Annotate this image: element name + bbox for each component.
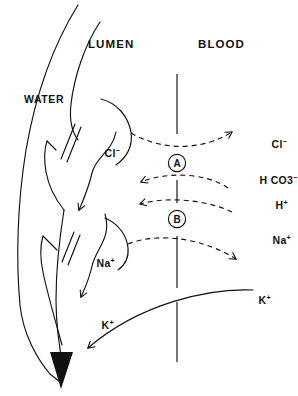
flow-chloride-to-blood	[131, 132, 232, 146]
flow-sodium-to-lumen	[81, 214, 107, 297]
flow-chloride-to-lumen	[79, 132, 116, 210]
apical-membrane-upper	[45, 141, 64, 210]
water-label: WATER	[24, 93, 64, 105]
ion-label-potassium-lumen: K+	[79, 315, 130, 331]
lateral-space-inner-wall-lower	[56, 210, 64, 372]
tight-junction-lower-mark-1	[62, 232, 74, 262]
junction-hook-lower	[43, 236, 57, 250]
ion-label-potassium-blood: K+	[236, 290, 287, 306]
exchanger-a-label: A	[173, 158, 180, 169]
ion-label-chloride-cell: Cl−	[82, 143, 136, 159]
ion-label-sodium-blood: Na+	[250, 230, 298, 246]
flow-sodium-to-blood	[128, 238, 236, 259]
transport-diagram: A B LUMEN BLOOD WATER Cl− Cl− H CO3−	[0, 0, 298, 396]
diagram-canvas: A B LUMEN BLOOD WATER Cl− Cl− H CO3−	[0, 0, 298, 396]
junction-hook-upper	[47, 141, 56, 150]
exchanger-b-label: B	[173, 214, 180, 225]
lateral-space-outer-wall	[18, 5, 78, 374]
flow-hydrogen-to-cell	[140, 200, 232, 212]
flow-bicarbonate-to-cell	[141, 175, 228, 188]
ion-label-bicarbonate-blood: H CO3−	[237, 170, 298, 186]
tight-junction-upper-mark-1	[61, 124, 75, 159]
lumen-label: LUMEN	[88, 38, 134, 50]
blood-label: BLOOD	[198, 38, 245, 50]
ion-label-hydrogen-blood: H+	[253, 195, 298, 211]
ion-label-chloride-blood: Cl−	[249, 134, 298, 150]
water-flow-arrowhead	[50, 352, 73, 389]
